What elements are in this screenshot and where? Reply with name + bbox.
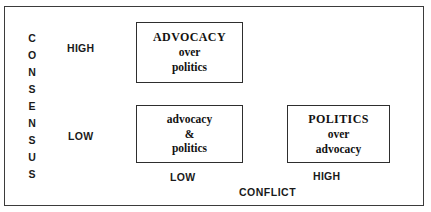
x-axis-title-conflict: CONFLICT [239,186,296,198]
quadrant-line-3: politics [172,141,207,156]
y-axis-letter: S [28,169,35,180]
quadrant-advocacy-and-politics: advocacy & politics [136,105,243,163]
quadrant-politics-over-advocacy: POLITICS over advocacy [287,105,390,163]
y-axis-label-high: HIGH [67,42,94,54]
y-axis-letter: C [28,33,36,44]
y-axis-title-consensus: C O N S E N S U S [24,33,40,179]
y-axis-letter: U [28,152,36,163]
quadrant-line-3: politics [172,60,207,75]
y-axis-letter: S [28,84,35,95]
quadrant-line-2: over [328,127,350,142]
y-axis-letter: E [28,101,35,112]
x-axis-label-high: HIGH [313,170,340,182]
y-axis-letter: S [28,135,35,146]
y-axis-letter: N [28,118,36,129]
x-axis-label-low: LOW [170,171,195,183]
quadrant-line-2: & [185,127,195,142]
y-axis-letter: N [28,67,36,78]
quadrant-line-1: POLITICS [308,112,369,127]
quadrant-line-1: advocacy [167,112,212,127]
quadrant-line-3: advocacy [316,142,361,157]
quadrant-advocacy-over-politics: ADVOCACY over politics [136,22,243,83]
quadrant-line-2: over [179,45,201,60]
quadrant-line-1: ADVOCACY [153,30,226,45]
y-axis-label-low: LOW [68,130,93,142]
y-axis-letter: O [28,50,36,61]
consensus-conflict-diagram: C O N S E N S U S HIGH LOW ADVOCACY over… [0,0,431,212]
